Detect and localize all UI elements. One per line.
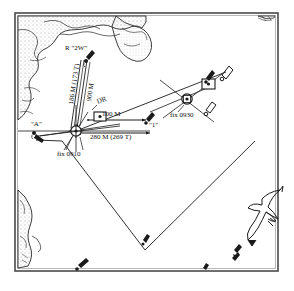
label-buoy-1: "1" — [149, 122, 158, 129]
label-fix-0930: fix 0930 — [170, 112, 194, 119]
label-course-280M: 280 M (269 T) — [90, 134, 131, 141]
label-buoy-a: "A" — [31, 121, 42, 128]
chart-figure: R "2W" 186 M (173 T) 900 M DR 100 M 280 … — [0, 0, 294, 291]
nautical-chart-drawing — [0, 0, 294, 291]
fix-0930-symbol — [182, 94, 192, 104]
label-distance-100M: 100 M — [102, 111, 120, 118]
label-fix-0910: fix 0910 — [57, 151, 81, 158]
label-buoy-r2w: R "2W" — [65, 45, 87, 52]
